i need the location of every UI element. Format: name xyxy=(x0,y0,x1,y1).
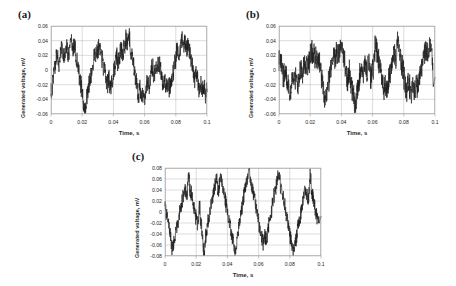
panel-a-ytick-4: -0.02 xyxy=(26,82,48,88)
panel-b-plot-area xyxy=(279,26,435,114)
panel-c-ytick-1: 0.06 xyxy=(140,176,162,182)
panel-c-ytick-5: -0.02 xyxy=(140,220,162,226)
panel-b-label: (b) xyxy=(246,8,259,20)
panel-a-xtick-1: 0.02 xyxy=(77,119,87,125)
panel-a-ytick-0: 0.06 xyxy=(26,23,48,29)
panel-c-y-axis-label: Generated voltage, mV xyxy=(134,197,140,258)
panel-a-xtick-2: 0.04 xyxy=(108,119,118,125)
panel-b-xtick-4: 0.08 xyxy=(399,119,409,125)
panel-c-ytick-3: 0.02 xyxy=(140,198,162,204)
panel-c-x-axis-label: Time, s xyxy=(165,272,321,278)
panel-c: (c) Generated voltage, mV 0.08 0.06 0.04… xyxy=(114,146,342,286)
panel-b-ytick-4: -0.02 xyxy=(254,82,276,88)
panel-c-label: (c) xyxy=(132,150,144,162)
panel-b-ytick-6: -0.06 xyxy=(254,111,276,117)
panel-b-ytick-0: 0.06 xyxy=(254,23,276,29)
panel-b-xtick-5: 0.1 xyxy=(431,119,438,125)
panel-b-ytick-5: -0.04 xyxy=(254,96,276,102)
panel-b-ytick-2: 0.02 xyxy=(254,52,276,58)
panel-a-xtick-4: 0.08 xyxy=(171,119,181,125)
panel-c-ytick-2: 0.04 xyxy=(140,187,162,193)
panel-a: (a) Generated voltage, mV 0.06 0.04 0.02… xyxy=(0,0,228,146)
panel-b: (b) Generated voltage, mV 0.06 0.04 0.02… xyxy=(228,0,456,146)
panel-c-xtick-4: 0.08 xyxy=(285,261,295,267)
panel-a-x-axis-label: Time, s xyxy=(51,130,207,136)
panel-b-ytick-1: 0.04 xyxy=(254,38,276,44)
panel-c-xtick-5: 0.1 xyxy=(317,261,324,267)
panel-c-plot-area xyxy=(165,168,321,256)
panel-a-xtick-3: 0.06 xyxy=(140,119,150,125)
panel-a-ytick-3: 0 xyxy=(26,67,48,73)
panel-c-ytick-7: -0.06 xyxy=(140,242,162,248)
panel-a-ytick-2: 0.02 xyxy=(26,52,48,58)
panel-b-ytick-3: 0 xyxy=(254,67,276,73)
panel-a-label: (a) xyxy=(18,8,31,20)
panel-b-x-axis-label: Time, s xyxy=(279,130,435,136)
panel-c-ytick-6: -0.04 xyxy=(140,231,162,237)
panel-c-xtick-0: 0 xyxy=(164,261,167,267)
panel-c-ytick-4: 0 xyxy=(140,209,162,215)
panel-a-ytick-1: 0.04 xyxy=(26,38,48,44)
panel-b-xtick-3: 0.06 xyxy=(368,119,378,125)
panel-c-xtick-2: 0.04 xyxy=(222,261,232,267)
panel-b-xtick-1: 0.02 xyxy=(305,119,315,125)
panel-a-ytick-6: -0.06 xyxy=(26,111,48,117)
panel-b-xtick-2: 0.04 xyxy=(336,119,346,125)
panel-c-ytick-0: 0.08 xyxy=(140,165,162,171)
panel-c-xtick-3: 0.06 xyxy=(254,261,264,267)
panel-b-xtick-0: 0 xyxy=(278,119,281,125)
panel-c-ytick-8: -0.08 xyxy=(140,253,162,259)
panel-a-xtick-5: 0.1 xyxy=(203,119,210,125)
panel-c-xtick-1: 0.02 xyxy=(191,261,201,267)
panel-a-ytick-5: -0.04 xyxy=(26,96,48,102)
figure-container: (a) Generated voltage, mV 0.06 0.04 0.02… xyxy=(0,0,456,286)
panel-a-plot-area xyxy=(51,26,207,114)
panel-a-xtick-0: 0 xyxy=(50,119,53,125)
